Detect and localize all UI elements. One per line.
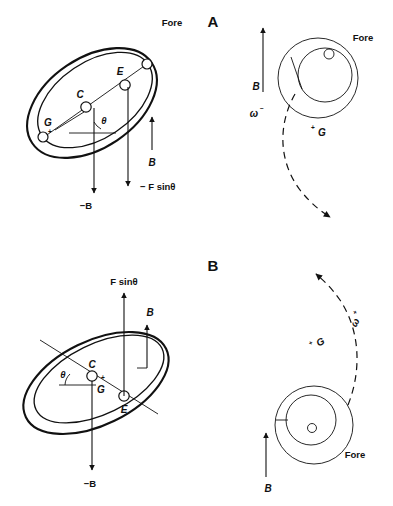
panel-b-label: B <box>208 257 219 274</box>
precession-arc-a <box>283 94 330 217</box>
fore-label-a-left: Fore <box>162 17 183 28</box>
theta-label-b: θ <box>60 369 66 380</box>
tilted-ring-view-b: C E + G θ F sinθ B −B <box>7 276 184 489</box>
b-label-b-right: B <box>264 483 271 494</box>
ring-node-upper-a <box>142 59 152 69</box>
gravity-sign-b: + <box>101 374 105 381</box>
theta-label-a: θ <box>101 115 107 126</box>
panel-a: A Fore C E G + <box>7 13 373 217</box>
axial-disc-view-a: B Fore ω − G + <box>250 28 373 217</box>
gravity-sign-a-right: + <box>311 124 315 131</box>
gravity-label-b-right: G <box>314 335 326 348</box>
theta-arc-a <box>94 122 101 129</box>
disc-inner-b <box>286 395 336 445</box>
omega-label-b: ω <box>348 316 362 329</box>
disc-inner-a <box>298 48 352 102</box>
ring-outer-b <box>7 311 184 455</box>
minus-b-label-a: −B <box>80 200 93 211</box>
gravity-label-a-right: G <box>318 127 326 138</box>
disc-spoke-a <box>291 57 302 89</box>
fore-label-b-right: Fore <box>345 449 366 460</box>
gravity-sign-b-right: + <box>307 339 314 347</box>
panel-a-label: A <box>208 13 219 30</box>
theta-arc-b <box>65 374 70 385</box>
gravity-sign-a: + <box>48 128 52 135</box>
omega-sign-a: − <box>260 105 264 112</box>
gravity-group-b-right: + G <box>307 333 326 352</box>
disc-outer-a <box>278 38 358 118</box>
gravity-leader-a <box>55 112 84 130</box>
figure-root: A Fore C E G + <box>0 0 393 506</box>
center-node-a <box>81 102 91 112</box>
eccentric-node-a <box>120 80 130 90</box>
b-label-b: B <box>146 307 153 318</box>
omega-label-a: ω <box>250 108 259 119</box>
ring-node-lower-a <box>38 132 48 142</box>
gravity-label-b: G <box>97 384 105 395</box>
center-node-b <box>87 371 97 381</box>
ring-inner-b <box>21 317 178 441</box>
minus-b-label-b: −B <box>84 478 97 489</box>
disc-hub-b <box>308 424 317 433</box>
omega-group-b: ω + <box>345 309 365 329</box>
tilted-ring-view-a: Fore C E G + θ <box>7 17 182 211</box>
center-label-b: C <box>88 359 96 370</box>
ring-axis-a <box>44 64 147 137</box>
omega-sign-b: + <box>351 309 359 316</box>
ring-axis-b <box>40 340 158 414</box>
center-label-a: C <box>76 89 84 100</box>
b-label-a-right: B <box>252 81 259 92</box>
gravity-label-a: G <box>44 117 52 128</box>
fore-label-a-right: Fore <box>353 32 374 43</box>
axial-disc-view-b: Fore B ω + + G <box>264 274 365 494</box>
f-sin-theta-label-b: F sinθ <box>110 276 137 287</box>
minus-f-sin-theta-label-a: − F sinθ <box>140 181 176 192</box>
panel-b: B C E + G θ F sinθ <box>7 257 365 494</box>
diagram-canvas: A Fore C E G + <box>0 0 393 506</box>
eccentric-label-a: E <box>117 66 124 77</box>
eccentric-label-b: E <box>121 404 128 415</box>
b-label-a: B <box>148 157 155 168</box>
disc-hub-a <box>324 49 334 59</box>
